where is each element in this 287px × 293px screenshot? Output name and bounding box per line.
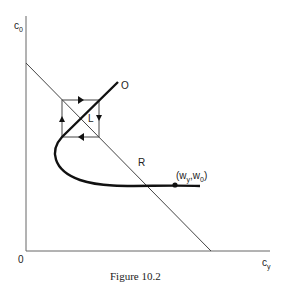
arrow-up-icon [59,116,65,122]
line-label-R: R [138,158,145,168]
line-R [26,63,211,251]
arrow-down-icon [96,115,102,121]
equilibrium-point [172,182,177,187]
y-axis-label: c0 [14,21,23,33]
arrow-left-icon [78,133,84,141]
point-label: (wy,w0) [176,171,207,183]
diagram-canvas [0,0,287,293]
origin-label: 0 [18,255,24,265]
curve-label-O: O [121,81,129,91]
figure-caption: Figure 10.2 [110,270,161,282]
curve-label-L: L [88,114,94,124]
x-axis-label: cy [262,258,271,270]
arrow-right-icon [78,96,84,104]
